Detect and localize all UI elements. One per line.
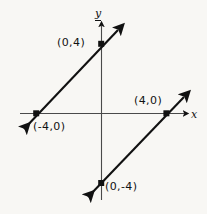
coordinate-plane-figure: (0,4) (-4,0) (4,0) (0,-4) y x: [0, 0, 207, 214]
plot-canvas: [0, 0, 207, 214]
point-label-0-4: (0,4): [57, 36, 85, 49]
point-label-0-neg4: (0,-4): [105, 180, 137, 193]
point-marker-0-4: [98, 41, 104, 47]
point-marker-neg4-0: [33, 110, 39, 116]
point-marker-0-neg4: [98, 180, 104, 186]
point-label-neg4-0: (-4,0): [33, 120, 65, 133]
point-marker-4-0: [163, 110, 169, 116]
point-label-4-0: (4,0): [134, 94, 162, 107]
x-axis-label: x: [191, 109, 197, 121]
y-axis-label: y: [95, 8, 101, 21]
